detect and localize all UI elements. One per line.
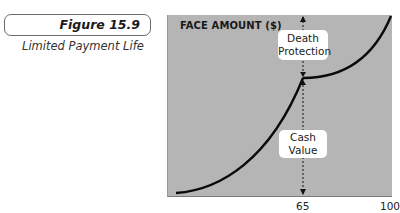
cash-value-label: Cash Value	[279, 130, 327, 158]
death-protection-label: Death Protection	[278, 30, 328, 60]
arrow-up-top-icon	[300, 16, 306, 22]
cash-line1: Cash	[279, 131, 327, 144]
death-line1: Death	[278, 32, 328, 45]
y-axis-label: FACE AMOUNT ($)	[180, 20, 282, 31]
death-line2: Protection	[278, 45, 328, 58]
x-tick-65: 65	[296, 200, 309, 212]
cash-line2: Value	[279, 144, 327, 157]
arrow-down-kink-icon	[300, 72, 306, 77]
arrow-down-bottom-icon	[300, 189, 306, 195]
x-tick-100: 100	[380, 200, 400, 212]
